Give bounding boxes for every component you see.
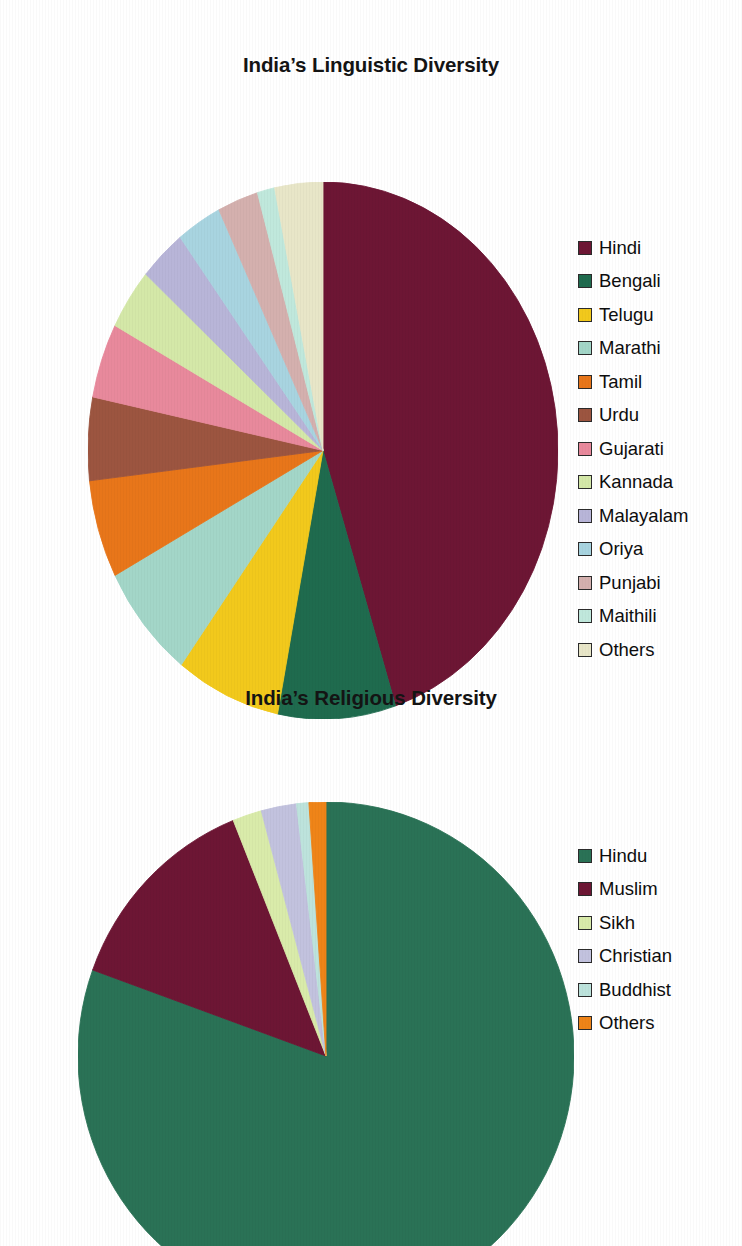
legend-swatch-icon xyxy=(578,542,592,556)
legend-swatch-icon xyxy=(578,983,592,997)
legend-item-others[interactable]: Others xyxy=(578,1007,672,1041)
legend-linguistic: HindiBengaliTeluguMarathiTamilUrduGujara… xyxy=(578,231,688,667)
pie-svg-linguistic xyxy=(88,182,558,719)
legend-swatch-icon xyxy=(578,509,592,523)
legend-item-kannada[interactable]: Kannada xyxy=(578,466,688,500)
legend-item-label: Sikh xyxy=(599,914,635,933)
legend-swatch-icon xyxy=(578,916,592,930)
legend-item-label: Gujarati xyxy=(599,440,664,459)
legend-item-label: Kannada xyxy=(599,473,673,492)
chart-panel-religious: India’s Religious Diversity HinduMuslimS… xyxy=(0,645,742,1246)
legend-swatch-icon xyxy=(578,274,592,288)
legend-swatch-icon xyxy=(578,442,592,456)
legend-item-label: Christian xyxy=(599,947,672,966)
legend-item-hindu[interactable]: Hindu xyxy=(578,839,672,873)
legend-item-gujarati[interactable]: Gujarati xyxy=(578,432,688,466)
legend-item-punjabi[interactable]: Punjabi xyxy=(578,566,688,600)
legend-item-label: Muslim xyxy=(599,880,658,899)
legend-item-telugu[interactable]: Telugu xyxy=(578,298,688,332)
legend-item-muslim[interactable]: Muslim xyxy=(578,873,672,907)
legend-item-label: Buddhist xyxy=(599,981,671,1000)
legend-item-label: Urdu xyxy=(599,406,639,425)
legend-item-tamil[interactable]: Tamil xyxy=(578,365,688,399)
legend-item-oriya[interactable]: Oriya xyxy=(578,533,688,567)
pie-chart-linguistic xyxy=(88,182,558,719)
legend-item-bengali[interactable]: Bengali xyxy=(578,265,688,299)
legend-swatch-icon xyxy=(578,308,592,322)
legend-swatch-icon xyxy=(578,576,592,590)
legend-swatch-icon xyxy=(578,882,592,896)
legend-item-label: Oriya xyxy=(599,540,643,559)
legend-swatch-icon xyxy=(578,375,592,389)
page-title-linguistic: India’s Linguistic Diversity xyxy=(0,17,742,77)
legend-item-sikh[interactable]: Sikh xyxy=(578,906,672,940)
chart-panel-linguistic: India’s Linguistic Diversity HindiBengal… xyxy=(0,0,742,645)
legend-swatch-icon xyxy=(578,408,592,422)
legend-item-christian[interactable]: Christian xyxy=(578,940,672,974)
legend-swatch-icon xyxy=(578,341,592,355)
legend-item-label: Bengali xyxy=(599,272,661,291)
legend-item-maithili[interactable]: Maithili xyxy=(578,600,688,634)
legend-item-label: Maithili xyxy=(599,607,657,626)
legend-item-label: Hindi xyxy=(599,239,641,258)
legend-item-malayalam[interactable]: Malayalam xyxy=(578,499,688,533)
legend-religious: HinduMuslimSikhChristianBuddhistOthers xyxy=(578,839,672,1040)
legend-swatch-icon xyxy=(578,849,592,863)
legend-item-buddhist[interactable]: Buddhist xyxy=(578,973,672,1007)
figure-page: India’s Linguistic Diversity HindiBengal… xyxy=(0,0,742,1246)
legend-item-hindi[interactable]: Hindi xyxy=(578,231,688,265)
legend-item-label: Telugu xyxy=(599,306,654,325)
page-title-religious: India’s Religious Diversity xyxy=(0,662,742,710)
legend-item-label: Marathi xyxy=(599,339,661,358)
legend-item-label: Others xyxy=(599,1014,655,1033)
legend-swatch-icon xyxy=(578,475,592,489)
legend-swatch-icon xyxy=(578,609,592,623)
legend-swatch-icon xyxy=(578,241,592,255)
legend-item-urdu[interactable]: Urdu xyxy=(578,399,688,433)
legend-item-label: Hindu xyxy=(599,847,647,866)
legend-item-label: Tamil xyxy=(599,373,642,392)
pie-chart-religious xyxy=(78,802,574,1246)
legend-item-label: Punjabi xyxy=(599,574,661,593)
pie-svg-religious xyxy=(78,802,574,1246)
legend-swatch-icon xyxy=(578,949,592,963)
legend-item-label: Malayalam xyxy=(599,507,688,526)
legend-item-marathi[interactable]: Marathi xyxy=(578,332,688,366)
legend-swatch-icon xyxy=(578,1016,592,1030)
